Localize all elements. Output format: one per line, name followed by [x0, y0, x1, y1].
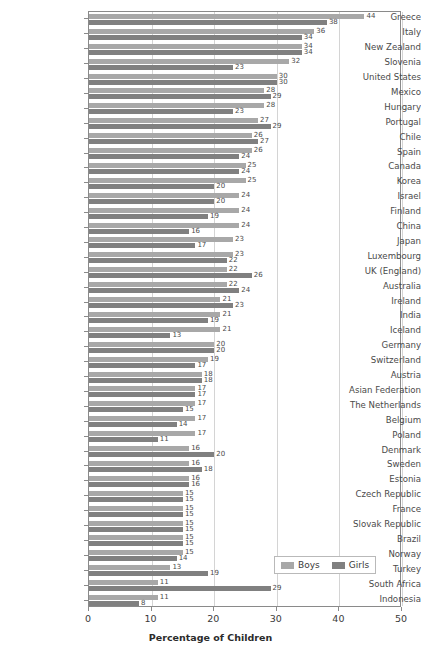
bar-girls	[89, 452, 214, 457]
bar-value-boys: 17	[197, 400, 206, 407]
category-tick	[84, 242, 88, 243]
category-tick	[84, 108, 88, 109]
category-tick	[84, 138, 88, 139]
bar-value-girls: 34	[304, 49, 313, 56]
bar-boys	[89, 163, 246, 168]
category-label-luxembourg: Luxembourg	[337, 252, 421, 261]
bar-girls	[89, 154, 239, 159]
category-label-belgium: Belgium	[337, 416, 421, 425]
x-tick-label-30: 30	[270, 613, 282, 624]
category-tick	[84, 302, 88, 303]
category-tick	[84, 93, 88, 94]
bar-value-boys: 32	[291, 58, 300, 65]
bar-girls	[89, 512, 183, 517]
legend-swatch-boys	[281, 562, 294, 569]
category-tick	[84, 451, 88, 452]
category-label-ireland: Ireland	[337, 297, 421, 306]
bar-value-boys: 25	[248, 177, 257, 184]
bar-boys	[89, 44, 302, 49]
category-label-spain: Spain	[337, 148, 421, 157]
bar-value-girls: 19	[210, 317, 219, 324]
bar-boys	[89, 431, 195, 436]
category-tick	[84, 525, 88, 526]
bar-value-girls: 14	[179, 555, 188, 562]
bar-value-boys: 11	[160, 579, 169, 586]
category-tick	[84, 376, 88, 377]
bar-value-boys: 24	[241, 222, 250, 229]
bar-girls	[89, 288, 239, 293]
category-label-the-netherlands: The Netherlands	[337, 401, 421, 410]
bar-boys	[89, 401, 195, 406]
category-label-uk-england: UK (England)	[337, 267, 421, 276]
bar-boys	[89, 506, 183, 511]
x-tick-label-50: 50	[395, 613, 407, 624]
bar-boys	[89, 14, 364, 19]
category-tick	[84, 421, 88, 422]
bar-rows: 4438363434343223303028292823272926272624…	[89, 12, 400, 606]
category-label-china: China	[337, 222, 421, 231]
category-tick	[84, 316, 88, 317]
category-tick	[84, 63, 88, 64]
bar-boys	[89, 386, 195, 391]
bar-boys	[89, 491, 183, 496]
bar-boys	[89, 237, 233, 242]
bar-girls	[89, 527, 183, 532]
bar-girls	[89, 571, 208, 576]
bar-boys	[89, 550, 183, 555]
bar-value-girls: 24	[241, 168, 250, 175]
bar-value-boys: 28	[266, 102, 275, 109]
bar-value-boys: 16	[191, 460, 200, 467]
bar-girls	[89, 363, 195, 368]
bar-girls	[89, 392, 195, 397]
category-tick	[84, 436, 88, 437]
category-label-italy: Italy	[337, 28, 421, 37]
bar-value-girls: 29	[273, 585, 282, 592]
category-tick	[84, 153, 88, 154]
bar-value-girls: 19	[210, 213, 219, 220]
bar-value-girls: 23	[235, 302, 244, 309]
category-tick	[84, 495, 88, 496]
category-label-slovak-republic: Slovak Republic	[337, 520, 421, 529]
plot-area: 4438363434343223303028292823272926272624…	[88, 11, 401, 607]
chart-legend: Boys Girls	[274, 556, 376, 574]
bar-value-girls: 14	[179, 421, 188, 428]
bar-boys	[89, 282, 227, 287]
bar-boys	[89, 446, 189, 451]
x-axis-title: Percentage of Children	[0, 632, 421, 643]
category-label-sweden: Sweden	[337, 460, 421, 469]
x-tick-40	[338, 607, 339, 611]
category-label-france: France	[337, 505, 421, 514]
category-label-australia: Australia	[337, 282, 421, 291]
category-label-asian-federation: Asian Federation	[337, 386, 421, 395]
bar-value-girls: 17	[197, 362, 206, 369]
category-label-canada: Canada	[337, 162, 421, 171]
category-label-iceland: Iceland	[337, 326, 421, 335]
category-label-south-africa: South Africa	[337, 580, 421, 589]
bar-girls	[89, 422, 177, 427]
category-label-poland: Poland	[337, 431, 421, 440]
x-tick-label-10: 10	[145, 613, 157, 624]
bar-girls	[89, 586, 271, 591]
category-tick	[84, 197, 88, 198]
bar-girls	[89, 541, 183, 546]
bar-value-boys: 16	[191, 445, 200, 452]
bar-girls	[89, 50, 302, 55]
bar-value-boys: 24	[241, 192, 250, 199]
bar-girls	[89, 556, 177, 561]
bar-girls	[89, 601, 139, 606]
category-tick	[84, 510, 88, 511]
bar-boys	[89, 148, 252, 153]
category-tick	[84, 391, 88, 392]
bar-girls	[89, 482, 189, 487]
bar-value-boys: 13	[172, 564, 181, 571]
bar-value-girls: 17	[197, 242, 206, 249]
bar-value-girls: 30	[279, 79, 288, 86]
category-label-indonesia: Indonesia	[337, 595, 421, 604]
bar-girls	[89, 333, 170, 338]
x-tick-label-40: 40	[332, 613, 344, 624]
bar-value-girls: 11	[160, 436, 169, 443]
bar-value-girls: 24	[241, 153, 250, 160]
bar-girls	[89, 20, 327, 25]
category-label-korea: Korea	[337, 177, 421, 186]
x-tick-30	[276, 607, 277, 611]
